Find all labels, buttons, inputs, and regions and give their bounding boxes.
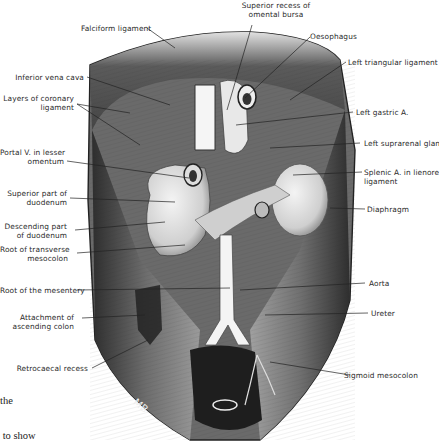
label-left-triangular-ligament: Left triangular ligament: [348, 58, 438, 67]
label-ascending-colon-line1: Attachment of: [0, 313, 74, 322]
label-coronary-ligament-line1: Layers of coronary: [0, 94, 74, 103]
label-portal-vein-line1: Portal V. in lesser: [0, 148, 64, 157]
label-sigmoid-mesocolon: Sigmoid mesocolon: [344, 371, 418, 380]
label-splenic-artery-line1: Splenic A. in lienorenal: [364, 168, 439, 177]
label-left-suprarenal-gland: Left suprarenal gland: [364, 139, 439, 148]
label-diaphragm: Diaphragm: [367, 205, 409, 214]
label-superior-duodenum-line1: Superior part of: [0, 189, 67, 198]
label-inferior-vena-cava: Inferior vena cava: [0, 73, 84, 82]
label-left-gastric-artery: Left gastric A.: [356, 108, 409, 117]
label-coronary-ligament-line2: ligament: [0, 103, 74, 112]
label-superior-duodenum-line2: duodenum: [0, 198, 67, 207]
figure-caption: the to show esenteries . The and of the …: [0, 372, 43, 444]
label-aorta: Aorta: [369, 279, 389, 288]
caption-line: the: [0, 395, 43, 407]
label-falciform-ligament: Falciform ligament: [81, 24, 151, 33]
label-transverse-mesocolon-line2: mesocolon: [0, 254, 68, 263]
label-root-of-mesentery: Root of the mesentery: [0, 286, 76, 295]
label-oesophagus: Oesophagus: [310, 32, 357, 41]
label-ureter: Ureter: [371, 309, 395, 318]
label-superior-recess-line1: Superior recess of: [226, 1, 326, 10]
label-descending-duodenum-line1: Descending part: [0, 222, 67, 231]
label-transverse-mesocolon-line1: Root of transverse: [0, 245, 68, 254]
label-superior-recess-line2: omental bursa: [226, 10, 326, 19]
label-ascending-colon-line2: ascending colon: [0, 322, 74, 331]
label-descending-duodenum-line2: of duodenum: [0, 231, 67, 240]
label-portal-vein-line2: omentum: [0, 157, 64, 166]
label-splenic-artery-line2: ligament: [364, 177, 397, 186]
caption-line: to show: [0, 430, 43, 442]
